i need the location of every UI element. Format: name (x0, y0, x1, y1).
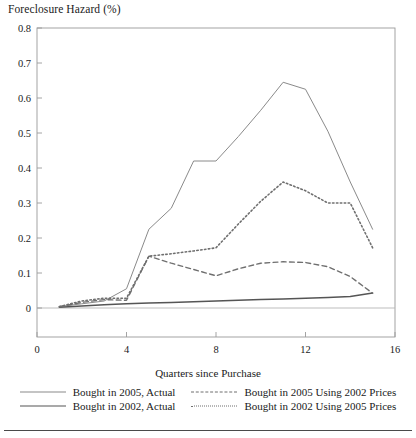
footer-divider (4, 430, 412, 431)
legend-swatch-solid-thick-icon (20, 401, 66, 411)
y-tick-label: 0.6 (18, 93, 31, 104)
y-tick-label: 0.8 (18, 23, 31, 34)
legend-item: Bought in 2002, Actual (20, 400, 176, 412)
chart-figure: Foreclosure Hazard (%) 00.10.20.30.40.50… (0, 0, 416, 438)
x-tick-label: 16 (390, 344, 401, 355)
x-tick-label: 8 (213, 344, 218, 355)
legend-item: Bought in 2005, Actual (20, 386, 176, 398)
legend-swatch-solid-thin-icon (20, 387, 66, 397)
legend-item-label: Bought in 2005, Actual (73, 386, 176, 398)
chart-legend: Bought in 2005, ActualBought in 2005 Usi… (0, 386, 416, 412)
chart-tick-labels: 00.10.20.30.40.50.60.70.80481216 (18, 23, 400, 355)
legend-swatch-dashed-icon (191, 387, 237, 397)
legend-item: Bought in 2002 Using 2005 Prices (191, 400, 396, 412)
y-tick-label: 0.3 (18, 198, 31, 209)
legend-item-label: Bought in 2002, Actual (73, 400, 176, 412)
y-tick-label: 0.2 (18, 233, 31, 244)
series-line (59, 182, 372, 307)
series-line (59, 256, 372, 306)
chart-axes (37, 28, 395, 337)
x-tick-label: 4 (124, 344, 130, 355)
legend-item-label: Bought in 2002 Using 2005 Prices (244, 400, 396, 412)
chart-series-lines (59, 82, 372, 307)
legend-item-label: Bought in 2005 Using 2002 Prices (244, 386, 396, 398)
series-line (59, 82, 372, 306)
y-tick-label: 0.5 (18, 128, 31, 139)
y-tick-label: 0.4 (18, 163, 32, 174)
y-tick-label: 0.1 (18, 268, 31, 279)
legend-swatch-dotted-icon (191, 401, 237, 411)
y-tick-label: 0 (26, 303, 31, 314)
legend-item: Bought in 2005 Using 2002 Prices (191, 386, 396, 398)
chart-axis-title-x: Quarters since Purchase (0, 367, 416, 379)
y-tick-label: 0.7 (18, 58, 31, 69)
x-tick-label: 0 (34, 344, 39, 355)
x-tick-label: 12 (300, 344, 311, 355)
